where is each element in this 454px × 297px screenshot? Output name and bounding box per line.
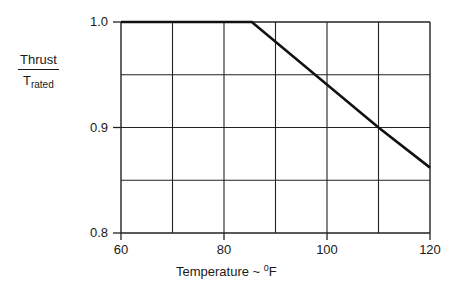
x-tick-label: 60 [101, 242, 141, 257]
y-label-subscript: rated [31, 79, 54, 90]
y-tick-label: 1.0 [68, 14, 108, 29]
x-tick-label: 80 [204, 242, 244, 257]
x-axis-label: Temperature ~ 0F [176, 263, 277, 279]
y-tick-label: 0.8 [68, 225, 108, 240]
y-label-numerator: Thrust [18, 52, 59, 70]
grid-lines [121, 22, 430, 233]
y-label-denominator: Trated [18, 73, 62, 90]
y-tick-label: 0.9 [68, 120, 108, 135]
x-tick-label: 100 [307, 242, 347, 257]
y-axis-label: Thrust Trated [18, 52, 62, 90]
x-tick-label: 120 [410, 242, 450, 257]
